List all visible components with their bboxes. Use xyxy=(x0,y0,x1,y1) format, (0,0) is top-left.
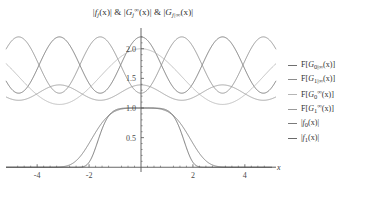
x-axis-label: x xyxy=(276,163,281,172)
legend-item-0[interactable]: F[G0|∞(x)] xyxy=(288,58,366,73)
legend-item-label: |f1(x)| xyxy=(301,134,319,144)
legend-item-5[interactable]: |f1(x)| xyxy=(288,131,366,146)
legend: F[G0|∞(x)]F[G1|∞(x)]F[G0∞(x)]F[G1∞(x)]|f… xyxy=(288,58,366,146)
legend-item-3[interactable]: F[G1∞(x)] xyxy=(288,102,366,117)
legend-item-label: F[G0|∞(x)] xyxy=(301,61,335,71)
y-tick-label-1: 1.0 xyxy=(126,104,136,113)
legend-item-label: |f0(x)| xyxy=(301,119,319,129)
y-tick-label-3: 2.0 xyxy=(126,45,136,54)
axis-group xyxy=(6,28,272,172)
title-term-2: |Gj∞(x)| xyxy=(124,7,152,17)
legend-item-label: F[G0∞(x)] xyxy=(301,89,334,101)
legend-item-2[interactable]: F[G0∞(x)] xyxy=(288,87,366,102)
x-tick-label-3: 4 xyxy=(243,171,247,180)
page-title: |fj(x)| & |Gj∞(x)| & |Gj|∞(x)| xyxy=(0,6,286,18)
legend-swatch-icon xyxy=(288,123,297,124)
legend-item-label: F[G1∞(x)] xyxy=(301,103,334,115)
y-tick-label-0: 0.5 xyxy=(126,134,136,143)
title-amp-1: & xyxy=(114,7,121,17)
y-tick-label-2: 1.5 xyxy=(126,74,136,83)
plot-area: -4-2240.51.01.52.0 x xyxy=(0,22,286,194)
title-amp-2: & xyxy=(154,7,161,17)
x-tick-label-1: -2 xyxy=(86,171,93,180)
x-tick-label-0: -4 xyxy=(34,171,41,180)
legend-swatch-icon xyxy=(288,94,297,95)
title-term-3: |Gj|∞(x)| xyxy=(163,7,193,17)
legend-item-label: F[G1|∞(x)] xyxy=(301,75,335,85)
legend-item-4[interactable]: |f0(x)| xyxy=(288,116,366,131)
x-tick-label-2: 2 xyxy=(191,171,195,180)
legend-swatch-icon xyxy=(288,65,297,66)
legend-swatch-icon xyxy=(288,138,297,139)
legend-swatch-icon xyxy=(288,79,297,80)
tick-label-group: -4-2240.51.01.52.0 xyxy=(34,45,247,181)
plot-canvas: -4-2240.51.01.52.0 x xyxy=(0,22,286,194)
title-term-1: |fj(x)| xyxy=(93,7,112,17)
legend-item-1[interactable]: F[G1|∞(x)] xyxy=(288,73,366,88)
legend-swatch-icon xyxy=(288,109,297,110)
chart-figure: |fj(x)| & |Gj∞(x)| & |Gj|∞(x)| -4-2240.5… xyxy=(0,0,366,202)
